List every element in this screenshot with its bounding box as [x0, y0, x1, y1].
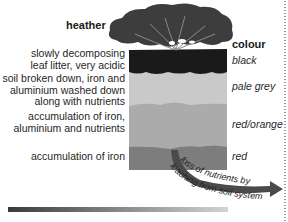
layer-red-orange — [129, 102, 227, 150]
layer-3-colour: red/orange — [232, 118, 283, 130]
layer-2-colour: pale grey — [232, 80, 275, 92]
layer-2-description: soil broken down, iron and aluminium was… — [2, 73, 125, 108]
heather-canopy — [109, 3, 233, 46]
layer-3-description: accumulation of iron, aluminium and nutr… — [14, 111, 125, 134]
layer-black — [129, 49, 227, 74]
layer-4-colour: red — [232, 150, 247, 162]
layer-pale-grey — [129, 70, 227, 106]
layer-1-colour: black — [232, 54, 257, 66]
colour-header: colour — [232, 38, 266, 50]
heather-label: heather — [66, 19, 106, 31]
layer-1-description: slowly decomposing leaf litter, very aci… — [30, 48, 125, 71]
dotted-border — [284, 0, 286, 222]
gradient-bar — [8, 207, 228, 212]
layer-4-description: accumulation of iron — [31, 151, 125, 163]
